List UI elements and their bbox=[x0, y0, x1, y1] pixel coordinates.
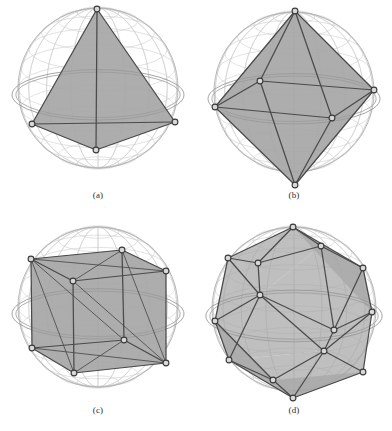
polyhedron-vertex bbox=[226, 357, 232, 363]
panel-d-caption: (d) bbox=[288, 406, 299, 415]
panel-c-caption: (c) bbox=[93, 406, 104, 415]
polyhedron-faces bbox=[215, 11, 374, 185]
polyhedron-vertex bbox=[212, 104, 218, 110]
polyhedron-vertex bbox=[71, 370, 77, 376]
panel-b-diagram bbox=[196, 0, 392, 190]
polyhedron-vertex bbox=[369, 309, 375, 315]
polyhedron-face bbox=[215, 107, 332, 185]
panel-a-diagram bbox=[0, 0, 196, 190]
polyhedron-vertex bbox=[172, 119, 178, 125]
polyhedron-vertex bbox=[290, 395, 296, 401]
polyhedron-vertex bbox=[94, 6, 100, 12]
polyhedron-vertex bbox=[212, 318, 218, 324]
panel-c: (c) bbox=[0, 215, 196, 431]
polyhedron-vertex bbox=[255, 260, 261, 266]
polyhedron-vertex bbox=[121, 337, 127, 343]
polyhedron-vertex bbox=[318, 243, 324, 249]
panel-d: (d) bbox=[196, 215, 392, 431]
polyhedron-vertex bbox=[163, 360, 169, 366]
polyhedron-vertex bbox=[292, 182, 298, 188]
panel-b: (b) bbox=[196, 0, 392, 215]
panel-a-caption: (a) bbox=[93, 191, 104, 200]
polyhedron-vertex bbox=[119, 247, 125, 253]
panel-d-diagram bbox=[196, 215, 392, 405]
polyhedron-vertex bbox=[329, 115, 335, 121]
polyhedron-vertex bbox=[270, 377, 276, 383]
polyhedron-vertex bbox=[29, 345, 35, 351]
panel-c-diagram bbox=[0, 215, 196, 405]
polyhedra-figure: (a) (b) (c) (d) bbox=[0, 0, 392, 431]
polyhedron-vertex bbox=[257, 78, 263, 84]
polyhedron-vertex bbox=[360, 369, 366, 375]
polyhedron-vertex bbox=[93, 147, 99, 153]
panel-a: (a) bbox=[0, 0, 196, 215]
polyhedron-vertex bbox=[321, 348, 327, 354]
polyhedron-vertex bbox=[331, 327, 337, 333]
polyhedron-vertex bbox=[292, 8, 298, 14]
panel-grid: (a) (b) (c) (d) bbox=[0, 0, 392, 431]
polyhedron-vertex bbox=[28, 256, 34, 262]
polyhedron-vertex bbox=[257, 292, 263, 298]
polyhedron-vertex bbox=[360, 265, 366, 271]
polyhedron-vertex bbox=[29, 121, 35, 127]
polyhedron-vertex bbox=[290, 224, 296, 230]
polyhedron-vertex bbox=[163, 268, 169, 274]
panel-b-caption: (b) bbox=[288, 191, 299, 200]
polyhedron-vertex bbox=[70, 278, 76, 284]
polyhedron-vertex bbox=[371, 87, 377, 93]
polyhedron-vertex bbox=[225, 255, 231, 261]
